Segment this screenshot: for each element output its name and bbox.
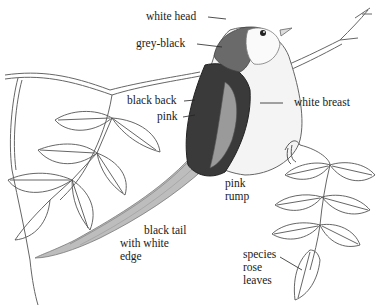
label-grey-black: grey-black	[136, 37, 185, 50]
bird-illustration	[0, 0, 380, 307]
label-species-rose-leaves: species rose leaves	[243, 248, 276, 287]
left-rose-leaves	[8, 111, 160, 240]
right-rose-leaves	[272, 145, 375, 300]
label-black-tail: black tailwith whiteedge	[120, 224, 186, 263]
bird-body	[186, 27, 302, 176]
label-black-back: black back	[127, 94, 177, 107]
label-white-breast: white breast	[294, 96, 350, 109]
label-pink: pink	[157, 110, 177, 123]
label-pink-rump: pink rump	[225, 177, 249, 203]
label-white-head: white head	[146, 10, 196, 23]
